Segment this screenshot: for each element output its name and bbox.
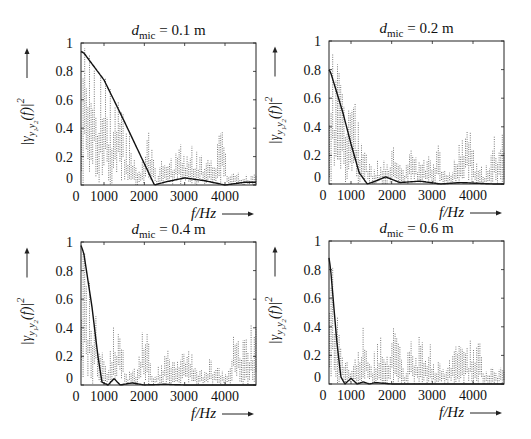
y-tick-label: 1 — [66, 235, 73, 250]
panel-dmic-0-2: dmic = 0.2 m00.20.40.60.8101000200030004… — [263, 20, 504, 220]
x-tick-label: 3000 — [418, 188, 446, 203]
y-tick-label: 1 — [314, 234, 321, 249]
y-tick-label: 0.6 — [304, 291, 322, 306]
measured-coherence-dotted — [330, 268, 504, 384]
y-tick-label: 0.8 — [56, 264, 74, 279]
y-axis-label-text: |γy1y2(f)|2 — [263, 97, 288, 144]
x-axis-label-text: f/Hz — [439, 404, 464, 420]
plot-frame — [329, 41, 504, 184]
x-tick-label: 3000 — [170, 189, 198, 204]
x-tick-label: 2000 — [378, 388, 406, 403]
panel-dmic-0-6: dmic = 0.6 m00.20.40.60.8101000200030004… — [263, 220, 504, 420]
y-axis-label: |γy1y2(f)|2 — [15, 248, 40, 346]
title-subscript: mic — [387, 227, 404, 239]
x-tick-label: 0 — [73, 389, 80, 404]
title-value: = 0.4 m — [155, 221, 205, 237]
y-axis-label: |γy1y2(f)|2 — [263, 47, 288, 145]
y-axis-arrowhead-icon — [25, 248, 30, 254]
x-tick-label: 2000 — [378, 188, 406, 203]
theoretical-coherence-curve — [329, 70, 504, 184]
y-axis-arrowhead-icon — [273, 247, 278, 253]
y-tick-label: 0.4 — [304, 120, 322, 135]
y-tick-label: 0.2 — [56, 150, 74, 165]
measured-coherence-dotted — [82, 253, 256, 385]
y-tick-label: 0.4 — [56, 121, 74, 136]
y-tick-label: 0.4 — [304, 320, 322, 335]
title-value: = 0.2 m — [403, 20, 453, 36]
panel-title: dmic = 0.6 m — [379, 220, 453, 239]
measured-coherence-dotted — [330, 54, 504, 184]
x-tick-label: 0 — [320, 388, 327, 403]
x-tick-label: 0 — [73, 189, 80, 204]
y-tick-label: 1 — [66, 36, 73, 51]
x-tick-label: 1000 — [337, 388, 365, 403]
y-tick-label: 0.2 — [56, 349, 74, 364]
y-tick-label: 0 — [66, 171, 73, 186]
y-axis-label-text: |γy1y2(f)|2 — [15, 98, 40, 145]
y-axis-label: |γy1y2(f)|2 — [263, 247, 288, 345]
y-tick-label: 0 — [66, 371, 73, 386]
x-tick-label: 1000 — [90, 189, 118, 204]
x-axis-label-text: f/Hz — [439, 204, 464, 220]
y-tick-label: 0.6 — [56, 93, 74, 108]
title-value: = 0.6 m — [403, 220, 453, 236]
title-subscript: mic — [387, 27, 404, 39]
y-tick-label: 0.4 — [56, 321, 74, 336]
x-axis-label: f/Hz — [191, 405, 216, 421]
measured-coherence-dotted — [82, 48, 256, 185]
x-tick-label: 3000 — [418, 388, 446, 403]
plot-frame — [81, 242, 256, 385]
y-tick-label: 0 — [314, 370, 321, 385]
x-tick-label: 2000 — [130, 189, 158, 204]
y-axis-label: |γy1y2(f)|2 — [15, 48, 40, 146]
x-axis-label: f/Hz — [191, 205, 216, 221]
plot-frame — [81, 43, 256, 185]
theoretical-coherence-curve — [81, 245, 256, 385]
x-axis-arrowhead-icon — [496, 211, 502, 216]
x-axis-arrowhead-icon — [248, 412, 254, 417]
y-axis-label-text: |γy1y2(f)|2 — [15, 298, 40, 345]
y-tick-label: 0.2 — [304, 348, 322, 363]
y-tick-label: 0.6 — [304, 91, 322, 106]
theoretical-coherence-curve — [81, 52, 256, 186]
x-axis-label: f/Hz — [439, 404, 464, 420]
x-axis-label-text: f/Hz — [191, 205, 216, 221]
coherence-figure: dmic = 0.1 m00.20.40.60.8101000200030004… — [0, 0, 531, 439]
y-tick-label: 0.8 — [304, 63, 322, 78]
x-axis-label: f/Hz — [439, 204, 464, 220]
x-tick-label: 4000 — [459, 188, 487, 203]
x-axis-arrowhead-icon — [496, 411, 502, 416]
panel-title: dmic = 0.2 m — [379, 20, 453, 39]
x-tick-label: 1000 — [337, 188, 365, 203]
x-tick-label: 4000 — [211, 189, 239, 204]
panel-title: dmic = 0.4 m — [131, 221, 205, 240]
x-tick-label: 1000 — [90, 389, 118, 404]
y-tick-label: 0 — [314, 170, 321, 185]
x-tick-label: 4000 — [211, 389, 239, 404]
panel-title: dmic = 0.1 m — [131, 22, 205, 41]
y-axis-arrowhead-icon — [25, 48, 30, 54]
x-axis-arrowhead-icon — [248, 212, 254, 217]
y-tick-label: 0.8 — [304, 263, 322, 278]
title-subscript: mic — [139, 228, 156, 240]
panel-dmic-0-1: dmic = 0.1 m00.20.40.60.8101000200030004… — [15, 22, 256, 221]
x-tick-label: 3000 — [170, 389, 198, 404]
y-tick-label: 0.2 — [304, 148, 322, 163]
y-tick-label: 1 — [314, 34, 321, 49]
y-axis-label-text: |γy1y2(f)|2 — [263, 297, 288, 344]
y-tick-label: 0.6 — [56, 292, 74, 307]
x-axis-label-text: f/Hz — [191, 405, 216, 421]
y-axis-arrowhead-icon — [273, 47, 278, 53]
title-subscript: mic — [139, 29, 156, 41]
x-tick-label: 2000 — [130, 389, 158, 404]
y-tick-label: 0.8 — [56, 64, 74, 79]
x-tick-label: 4000 — [459, 388, 487, 403]
title-value: = 0.1 m — [155, 22, 205, 38]
panel-dmic-0-4: dmic = 0.4 m00.20.40.60.8101000200030004… — [15, 221, 256, 421]
x-tick-label: 0 — [320, 188, 327, 203]
